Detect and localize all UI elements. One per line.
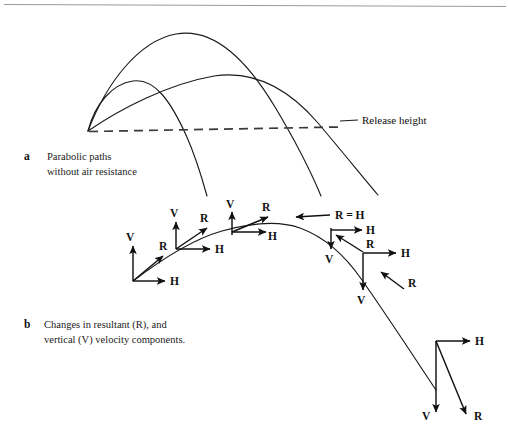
rising-late-vertical-label: V	[226, 198, 235, 210]
falling-mid-resultant-label: R	[408, 277, 417, 289]
panel-a-caption-line-2: without air resistance	[47, 166, 137, 177]
falling-mid-horizontal-label: H	[401, 247, 410, 259]
falling-early-horizontal-label: H	[366, 224, 375, 236]
rising-late-resultant-label: R	[262, 201, 271, 213]
panel-b-marker: b	[24, 318, 30, 330]
falling-mid-resultant-vector	[381, 272, 404, 289]
release-height-datum-line	[89, 127, 340, 132]
apex-resultant-equals-horizontal-vector	[296, 215, 330, 217]
panel-a-caption: a Parabolic paths without air resistance	[24, 150, 137, 177]
launch-resultant-label: R	[159, 240, 168, 252]
apex-label: R = H	[335, 209, 365, 221]
cluster-apex: R = H	[296, 209, 365, 221]
cluster-launch: V H R	[126, 231, 179, 287]
release-height-label: Release height	[362, 114, 426, 126]
falling-early-vertical-label: V	[325, 253, 334, 265]
falling-early-resultant-vector	[336, 235, 363, 252]
panel-a-marker: a	[24, 150, 30, 162]
launch-resultant-vector	[133, 256, 163, 281]
cluster-falling-early: V H R	[325, 224, 375, 265]
cluster-falling-mid: V H R	[357, 247, 417, 306]
falling-mid-vertical-label: V	[357, 294, 366, 306]
falling-early-resultant-label: R	[366, 238, 375, 250]
panel-a-caption-line-1: Parabolic paths	[47, 151, 111, 162]
rising-early-horizontal-label: H	[215, 243, 224, 255]
figure-canvas: Release height a Parabolic paths without…	[0, 0, 508, 432]
rising-early-resultant-label: R	[200, 212, 209, 224]
cluster-rising-early: V H R	[170, 207, 224, 255]
rising-late-resultant-vector	[232, 217, 268, 232]
cluster-rising-late: V H R	[226, 198, 277, 242]
falling-late-resultant-label: R	[474, 410, 483, 422]
launch-horizontal-label: H	[170, 275, 179, 287]
release-height-leader-line	[340, 120, 358, 121]
panel-b-caption-line-1: Changes in resultant (R), and	[44, 319, 168, 331]
projectile-motion-figure: Release height a Parabolic paths without…	[0, 0, 508, 432]
launch-vertical-label: V	[126, 231, 135, 243]
page-top-rule	[4, 5, 506, 7]
falling-late-horizontal-label: H	[475, 335, 484, 347]
falling-late-resultant-vector	[436, 341, 466, 414]
panel-a-trajectories: Release height	[88, 33, 426, 196]
falling-late-vertical-label: V	[422, 410, 431, 422]
panel-b-caption-line-2: vertical (V) velocity components.	[44, 334, 185, 346]
rising-late-horizontal-label: H	[268, 230, 277, 242]
panel-b-caption: b Changes in resultant (R), and vertical…	[24, 318, 185, 346]
rising-early-vertical-label: V	[170, 207, 179, 219]
cluster-falling-late: V H R	[422, 335, 484, 422]
